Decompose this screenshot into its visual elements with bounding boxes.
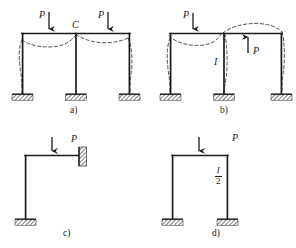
panel-b-supports xyxy=(160,94,292,100)
panel-b-load-down-label: P xyxy=(183,10,189,20)
panel-b-support-right xyxy=(271,94,292,100)
panel-b-group xyxy=(160,13,292,100)
panel-d-stiffness-numerator: I xyxy=(215,166,222,175)
panel-a-support-left xyxy=(12,94,33,100)
panel-c-caption: c) xyxy=(63,229,70,239)
panel-a-support-right xyxy=(119,94,140,100)
panel-a-support-middle xyxy=(66,94,87,100)
panel-b-member-i-label: I xyxy=(214,57,217,67)
panel-d-stiffness-denominator: 2 xyxy=(215,177,222,186)
panel-d-group xyxy=(162,137,238,225)
panel-c-support-base xyxy=(15,219,36,225)
panel-a-load-right-label: P xyxy=(98,10,104,20)
panel-c-group xyxy=(15,137,87,225)
panel-d-caption: d) xyxy=(212,229,220,239)
panel-a-supports xyxy=(12,94,140,100)
frame-diagram-svg xyxy=(0,0,296,248)
panel-d-supports xyxy=(162,219,238,225)
panel-a-load-left-label: P xyxy=(39,10,45,20)
panel-d-support-right xyxy=(217,219,238,225)
panel-c-frame-members xyxy=(25,156,79,220)
panel-c-wall-support xyxy=(79,147,87,166)
panel-b-support-left xyxy=(160,94,181,100)
panel-a-caption: a) xyxy=(70,106,77,116)
panel-a-joint-c-label: C xyxy=(72,20,79,30)
panel-b-caption: b) xyxy=(220,106,228,116)
panel-d-support-left xyxy=(162,219,183,225)
panel-b-support-middle xyxy=(214,94,235,100)
figure-root: P P C a) P P I b) P c) P I 2 d) xyxy=(0,0,296,248)
panel-d-load-label: P xyxy=(232,133,238,143)
panel-c-load-label: P xyxy=(71,134,77,144)
panel-b-load-up-label: P xyxy=(253,46,259,56)
panel-d-stiffness-fraction: I 2 xyxy=(215,166,222,186)
panel-a-frame-members xyxy=(22,34,130,95)
